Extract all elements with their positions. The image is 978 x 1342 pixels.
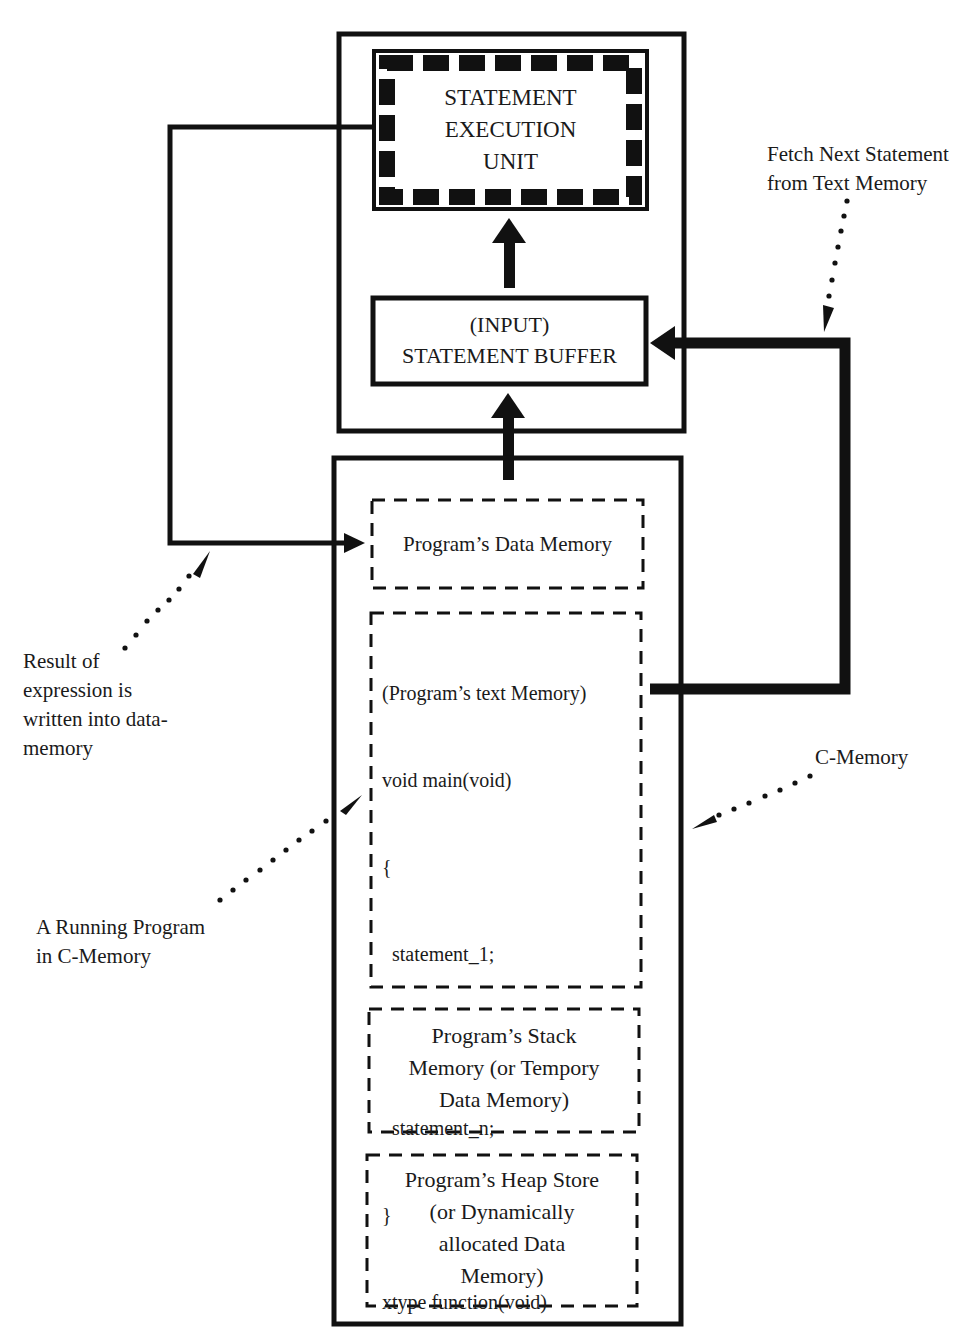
c-memory-annotation: C-Memory — [815, 743, 908, 772]
fetch-annotation-line-1: Fetch Next Statement — [767, 140, 949, 169]
execution-unit-line-2: EXECUTION — [387, 114, 634, 146]
result-annotation-pointer — [122, 551, 210, 651]
heap-memory-label: Program’s Heap Store (or Dynamically all… — [367, 1164, 637, 1292]
execution-unit-line-1: STATEMENT — [387, 82, 634, 114]
stack-line-3: Data Memory) — [369, 1084, 639, 1116]
running-program-annotation: A Running Program in C-Memory — [36, 913, 205, 971]
memory-to-buffer-arrow — [491, 393, 525, 480]
heap-line-4: Memory) — [367, 1260, 637, 1292]
statement-buffer-label: (INPUT) STATEMENT BUFFER — [373, 309, 646, 371]
running-program-line-2: in C-Memory — [36, 942, 205, 971]
fetch-annotation-line-2: from Text Memory — [767, 169, 949, 198]
c-memory-annotation-pointer — [692, 773, 813, 829]
statement-buffer-line-1: (INPUT) — [373, 309, 646, 340]
result-annotation: Result of expression is written into dat… — [23, 647, 168, 763]
code-line: void main(void) — [382, 766, 586, 795]
result-annotation-line-1: Result of — [23, 647, 168, 676]
code-line: xtype function(void) — [382, 1288, 586, 1317]
stack-line-1: Program’s Stack — [369, 1020, 639, 1052]
stack-line-2: Memory (or Tempory — [369, 1052, 639, 1084]
buffer-to-execution-arrow — [492, 218, 526, 288]
running-program-line-1: A Running Program — [36, 913, 205, 942]
result-annotation-line-2: expression is — [23, 676, 168, 705]
data-memory-label: Program’s Data Memory — [372, 528, 643, 560]
heap-line-2: (or Dynamically — [367, 1196, 637, 1228]
running-program-annotation-pointer — [217, 795, 362, 903]
execution-unit-label: STATEMENT EXECUTION UNIT — [387, 82, 634, 178]
code-line: statement_n; — [382, 1114, 586, 1143]
fetch-annotation-pointer — [823, 198, 850, 332]
fetch-annotation: Fetch Next Statement from Text Memory — [767, 140, 949, 198]
code-line: (Program’s text Memory) — [382, 679, 586, 708]
stack-memory-label: Program’s Stack Memory (or Tempory Data … — [369, 1020, 639, 1116]
result-annotation-line-3: written into data- — [23, 705, 168, 734]
write-back-connector — [170, 127, 374, 553]
statement-buffer-line-2: STATEMENT BUFFER — [373, 340, 646, 371]
heap-line-3: allocated Data — [367, 1228, 637, 1260]
heap-line-1: Program’s Heap Store — [367, 1164, 637, 1196]
result-annotation-line-4: memory — [23, 734, 168, 763]
code-line: { — [382, 853, 586, 882]
execution-unit-line-3: UNIT — [387, 146, 634, 178]
code-line: statement_1; — [382, 940, 586, 969]
